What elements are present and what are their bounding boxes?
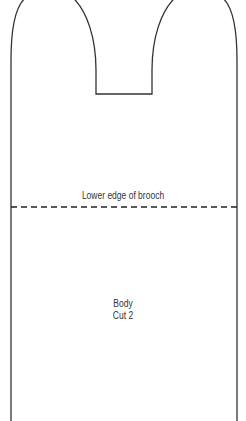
pattern-outline: [0, 0, 246, 421]
piece-name: Body: [18, 298, 227, 310]
body-piece-outline: [11, 0, 237, 421]
brooch-edge-label: Lower edge of brooch: [18, 190, 227, 201]
cut-instruction: Cut 2: [18, 310, 227, 322]
piece-label: Body Cut 2: [18, 298, 227, 322]
